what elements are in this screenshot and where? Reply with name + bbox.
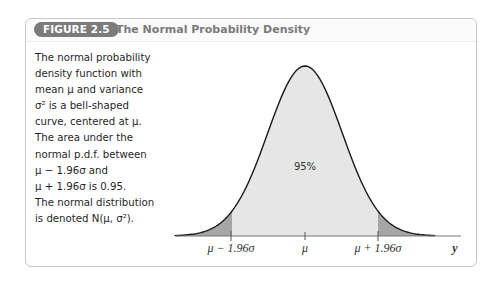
central-region <box>232 66 378 236</box>
tick-label-center: μ <box>301 241 308 255</box>
axis-variable-label: y <box>450 241 458 255</box>
tick-label-left: μ − 1.96σ <box>206 241 255 255</box>
area-label: 95% <box>294 161 316 172</box>
tick-label-right: μ + 1.96σ <box>353 241 402 255</box>
normal-density-plot: 95% μ − 1.96σ μ μ + 1.96σ y <box>0 0 498 283</box>
